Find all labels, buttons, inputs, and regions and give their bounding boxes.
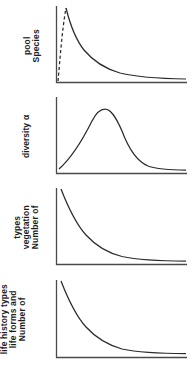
- panel-alpha-diversity: α diversity: [0, 91, 192, 182]
- alpha-symbol: α: [22, 115, 31, 120]
- axes-lines: [57, 6, 188, 83]
- curve-life-forms-history: [61, 281, 186, 354]
- chart-svg-vegetation-types: [48, 182, 192, 273]
- y-axis-label-line: Number of: [30, 206, 39, 250]
- y-axis-label-line: Species: [31, 29, 40, 62]
- axes-lines: [57, 97, 188, 174]
- y-axis-label-species-pool: Species pool: [0, 0, 48, 91]
- panel-vegetation-types: Number of vegetation types: [0, 182, 192, 273]
- curve-species-pool: [66, 8, 186, 79]
- axes-lines: [57, 188, 188, 265]
- panel-species-pool: Species pool: [0, 0, 192, 91]
- plot-area-vegetation-types: [48, 182, 192, 273]
- chart-svg-alpha-diversity: [48, 91, 192, 182]
- curve-alpha-diversity: [59, 109, 186, 170]
- y-axis-label-line: diversity: [22, 123, 31, 158]
- y-axis-label-vegetation-types: Number of vegetation types: [0, 182, 48, 273]
- plot-area-species-pool: [48, 0, 192, 91]
- panel-life-forms-history: Number of life forms and life history ty…: [0, 273, 192, 366]
- axes-lines: [57, 280, 188, 358]
- curve-vegetation-types: [61, 189, 186, 261]
- dashed-rise-species-pool: [58, 8, 66, 81]
- y-axis-label-life-forms-history: Number of life forms and life history ty…: [0, 273, 48, 366]
- plot-area-life-forms-history: [48, 273, 192, 366]
- chart-svg-species-pool: [48, 0, 192, 91]
- y-axis-label-alpha-diversity: α diversity: [0, 91, 48, 182]
- y-axis-label-line: Number of: [17, 298, 26, 342]
- plot-area-alpha-diversity: [48, 91, 192, 182]
- chart-svg-life-forms-history: [48, 273, 192, 366]
- figure-container: Species pool α diversity: [0, 0, 192, 366]
